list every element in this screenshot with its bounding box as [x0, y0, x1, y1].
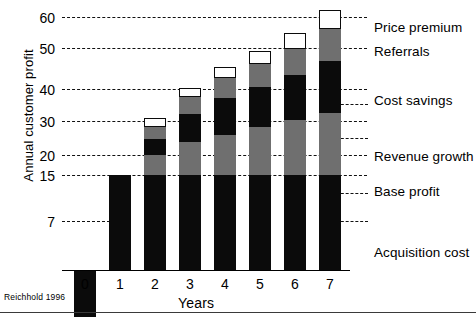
annotation-price-premium: Price premium [374, 20, 462, 35]
segment-price-premium [319, 10, 341, 29]
y-tick-label-40: 40 [39, 83, 55, 97]
x-tick-label-6: 6 [280, 276, 310, 292]
bar-year-6 [284, 33, 306, 270]
segment-referrals [319, 29, 341, 61]
segment-cost-savings [284, 75, 306, 120]
bar-year-1 [109, 175, 131, 270]
segment-base-profit [249, 175, 271, 270]
segment-referrals [249, 64, 271, 87]
bar-year-5 [249, 51, 271, 270]
segment-price-premium [214, 67, 236, 78]
segment-base-profit [319, 175, 341, 270]
segment-cost-savings [249, 87, 271, 127]
segment-base-profit [179, 175, 201, 270]
segment-price-premium [284, 33, 306, 49]
annotation-base-profit: Base profit [374, 184, 440, 199]
y-axis-title: Annual customer profit [21, 26, 36, 206]
chart-figure: Annual customer profit 60 50 40 30 20 15… [0, 0, 476, 321]
segment-revenue-growth [249, 127, 271, 175]
segment-referrals [214, 78, 236, 98]
annotation-cost-savings: Cost savings [374, 93, 452, 108]
segment-base-profit [109, 175, 131, 270]
x-tick-label-1: 1 [105, 276, 135, 292]
x-tick-label-2: 2 [140, 276, 170, 292]
segment-base-profit [144, 175, 166, 270]
segment-base-profit [284, 175, 306, 270]
y-tick-label-20: 20 [39, 149, 55, 163]
y-tick-label-60: 60 [39, 11, 55, 25]
annotation-acquisition-cost: Acquisition cost [374, 245, 469, 260]
segment-base-profit [214, 175, 236, 270]
source-note: Reichhold 1996 [4, 292, 65, 302]
segment-revenue-growth [179, 142, 201, 175]
gridline-7: 7 [62, 221, 110, 222]
y-tick-label-50: 50 [39, 42, 55, 56]
x-tick-label-0: 0 [70, 276, 100, 292]
segment-revenue-growth [214, 135, 236, 175]
segment-referrals [179, 97, 201, 114]
segment-referrals [284, 49, 306, 75]
segment-revenue-growth [284, 120, 306, 175]
x-tick-label-5: 5 [245, 276, 275, 292]
segment-cost-savings [144, 139, 166, 155]
annotation-referrals: Referrals [374, 44, 430, 59]
segment-cost-savings [179, 114, 201, 142]
segment-price-premium [179, 88, 201, 97]
y-tick-label-7: 7 [47, 215, 55, 229]
bar-year-4 [214, 67, 236, 270]
segment-revenue-growth [144, 155, 166, 175]
segment-referrals [144, 127, 166, 139]
bar-year-3 [179, 88, 201, 270]
plot-area: 60 50 40 30 20 15 7 [62, 8, 350, 270]
y-tick-label-30: 30 [39, 115, 55, 129]
bar-year-2 [144, 118, 166, 270]
x-tick-label-4: 4 [210, 276, 240, 292]
x-axis-line [62, 270, 350, 271]
segment-price-premium [249, 51, 271, 64]
segment-price-premium [144, 118, 166, 127]
x-axis-title: Years [178, 295, 214, 311]
y-tick-label-15: 15 [39, 169, 55, 183]
annotation-revenue-growth: Revenue growth [374, 149, 474, 164]
segment-cost-savings [214, 98, 236, 135]
x-tick-label-7: 7 [315, 276, 345, 292]
segment-cost-savings [319, 61, 341, 113]
bottom-divider [0, 312, 476, 313]
x-tick-label-3: 3 [175, 276, 205, 292]
bar-year-7 [319, 10, 341, 270]
segment-revenue-growth [319, 113, 341, 175]
